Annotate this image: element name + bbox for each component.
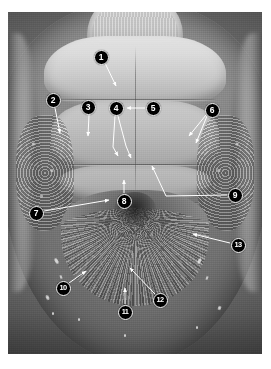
callout-marker-7[interactable]: 7 [29, 206, 44, 221]
surface-speck-5 [78, 318, 80, 321]
callout-marker-8[interactable]: 8 [117, 194, 132, 209]
callout-marker-5[interactable]: 5 [146, 101, 161, 116]
surface-speck-9 [196, 326, 198, 329]
midline-groove [135, 46, 136, 203]
callout-marker-4[interactable]: 4 [109, 101, 124, 116]
surface-speck-10 [124, 334, 126, 337]
callout-marker-6[interactable]: 6 [205, 103, 220, 118]
setose-genital-field [61, 190, 208, 306]
callout-marker-12[interactable]: 12 [153, 293, 168, 308]
callout-marker-13[interactable]: 13 [231, 238, 246, 253]
callout-marker-9[interactable]: 9 [228, 188, 243, 203]
micrograph-plate [8, 12, 262, 354]
callout-marker-3[interactable]: 3 [81, 100, 96, 115]
surface-speck-4 [52, 312, 54, 315]
figure-root: 12345678910111213 [0, 0, 271, 369]
callout-marker-10[interactable]: 10 [56, 281, 71, 296]
callout-marker-11[interactable]: 11 [118, 305, 133, 320]
callout-marker-1[interactable]: 1 [94, 50, 109, 65]
callout-marker-2[interactable]: 2 [46, 93, 61, 108]
